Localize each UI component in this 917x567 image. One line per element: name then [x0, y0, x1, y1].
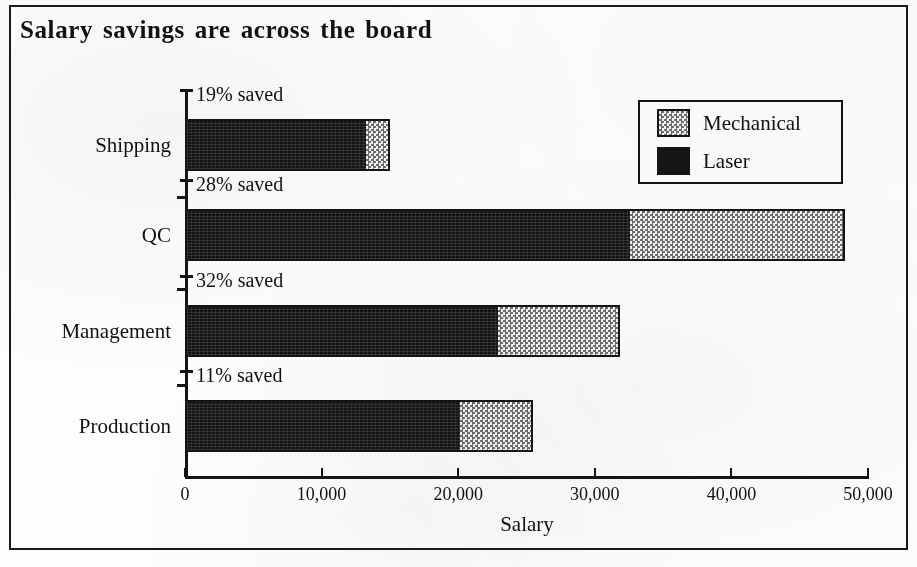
category-label-shipping: Shipping — [95, 133, 171, 158]
plot-area: 010,00020,00030,00040,00050,000 Salary S… — [0, 0, 917, 567]
x-axis-tick-label: 0 — [181, 484, 190, 505]
bar-production — [185, 400, 533, 452]
x-axis-tick-label: 50,000 — [843, 484, 893, 505]
category-label-qc: QC — [142, 223, 171, 248]
x-axis-title: Salary — [185, 512, 869, 537]
x-axis-tick — [321, 468, 323, 477]
category-label-management: Management — [61, 319, 171, 344]
x-axis-tick — [730, 468, 732, 477]
legend-label-mechanical: Mechanical — [703, 111, 801, 136]
x-axis-tick-label: 10,000 — [297, 484, 347, 505]
legend-entry-mechanical: Mechanical — [657, 108, 801, 138]
saved-annotation-production: 11% saved — [196, 364, 282, 387]
x-axis-tick-label: 40,000 — [707, 484, 757, 505]
bar-shipping — [185, 119, 390, 171]
bar-segment-laser — [187, 402, 460, 450]
legend-swatch-laser-icon — [657, 147, 690, 175]
bar-segment-laser — [187, 211, 630, 259]
chart-legend: Mechanical Laser — [638, 100, 843, 184]
bar-segment-mechanical — [366, 121, 388, 169]
x-axis-tick-label: 20,000 — [433, 484, 483, 505]
saved-annotation-tick — [185, 370, 188, 385]
x-axis-tick — [457, 468, 459, 477]
saved-annotation-shipping: 19% saved — [196, 83, 283, 106]
legend-entry-laser: Laser — [657, 146, 750, 176]
x-axis-tick — [867, 468, 869, 477]
bar-segment-mechanical — [498, 307, 618, 355]
bar-segment-mechanical — [460, 402, 531, 450]
x-axis-tick — [184, 468, 186, 477]
x-axis-tick-label: 30,000 — [570, 484, 620, 505]
legend-label-laser: Laser — [703, 149, 750, 174]
bar-segment-laser — [187, 307, 498, 355]
saved-annotation-tick — [185, 179, 188, 194]
figure-root: Salary savings are across the board 010,… — [0, 0, 917, 567]
category-axis-tick — [177, 196, 188, 199]
bar-management — [185, 305, 620, 357]
category-label-production: Production — [79, 414, 171, 439]
bar-qc — [185, 209, 845, 261]
saved-annotation-management: 32% saved — [196, 269, 283, 292]
category-axis-tick — [177, 384, 188, 387]
x-axis-tick — [594, 468, 596, 477]
saved-annotation-qc: 28% saved — [196, 173, 283, 196]
category-axis-tick — [177, 288, 188, 291]
bar-segment-laser — [187, 121, 366, 169]
legend-swatch-mechanical-icon — [657, 109, 690, 137]
saved-annotation-tick — [185, 89, 188, 104]
bar-segment-mechanical — [630, 211, 843, 259]
value-axis-line — [185, 476, 869, 479]
